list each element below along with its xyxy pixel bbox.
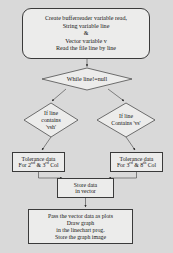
left-decision-line-2: contains <box>41 117 60 123</box>
start-line-3: & <box>84 30 89 37</box>
left-process-line-2: For 2nd & 3rd Col <box>18 162 58 168</box>
right-process-line-2: For 3rd & 8th Col <box>117 162 156 168</box>
end-line-4: Store the graph image <box>55 234 106 240</box>
left-decision-line-1: If line <box>44 110 58 116</box>
end-node: Pass the vector data as plots Draw graph… <box>28 209 133 244</box>
start-line-4: Vector variable v <box>65 38 107 45</box>
store-node: Store data in vector <box>57 178 114 198</box>
left-decision-node: If line contains 'vsh' <box>24 103 78 137</box>
while-decision-label: While line!=null <box>67 76 108 83</box>
start-node: Create bufferreader variable read, Strin… <box>22 8 150 59</box>
edge-left-decision-to-left-process <box>42 137 51 150</box>
start-line-1: Create bufferreader variable read, <box>45 15 127 22</box>
end-line-3: in the linechart prog. <box>56 227 104 233</box>
flowchart-canvas: Create bufferreader variable read, Strin… <box>0 0 173 253</box>
right-decision-line-1: If line <box>119 113 133 119</box>
edge-while-to-right-decision <box>108 89 124 101</box>
end-line-2: Draw graph <box>67 220 95 226</box>
edge-while-to-left-decision <box>52 89 66 101</box>
right-decision-node: If line Contains 'vs' <box>97 103 155 137</box>
end-line-1: Pass the vector data as plots <box>48 213 113 219</box>
edge-right-decision-to-right-process <box>126 137 135 150</box>
start-line-5: Read the file line by line <box>56 45 116 52</box>
right-decision-line-2: Contains 'vs' <box>111 120 140 126</box>
right-process-node: Tolerance data For 3rd & 8th Col <box>110 152 163 172</box>
store-line-2: in vector <box>75 188 95 194</box>
while-decision-node: While line!=null <box>42 68 132 90</box>
left-process-node: Tolerance data For 2nd & 3rd Col <box>12 152 65 172</box>
start-line-2: String variable line <box>63 23 110 30</box>
left-decision-line-3: 'vsh' <box>46 124 56 130</box>
